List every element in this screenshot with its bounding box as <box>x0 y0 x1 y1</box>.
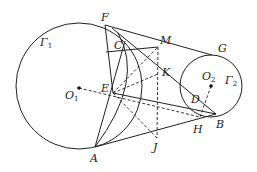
line-ek <box>113 74 158 93</box>
line-mj <box>157 47 158 138</box>
label-b: B <box>215 118 224 131</box>
label-h: H <box>192 123 203 136</box>
line-ej <box>113 93 157 138</box>
line-eb <box>113 93 216 114</box>
label-e: E <box>100 82 109 95</box>
label-m: M <box>159 34 172 47</box>
label-d: D <box>190 93 200 106</box>
label-f: F <box>100 11 109 24</box>
label-k: K <box>161 66 171 79</box>
label-gamma2: Γ2 <box>224 74 237 88</box>
label-a: A <box>89 152 98 165</box>
center-o1-dot <box>77 86 81 90</box>
circle-gamma1 <box>16 23 142 149</box>
label-g: G <box>218 42 227 55</box>
line-ea <box>95 41 125 147</box>
label-o1: O1 <box>65 89 79 103</box>
label-j: J <box>151 141 158 154</box>
label-c: C <box>114 39 123 52</box>
geometry-diagram: Γ1 Γ2 F C M G E K D H B J A O1 O2 <box>0 0 257 172</box>
center-o2-dot <box>209 84 213 88</box>
label-o2: O2 <box>202 70 216 84</box>
line-o1-h <box>79 88 200 117</box>
label-gamma1: Γ1 <box>39 36 52 50</box>
line-em <box>113 47 158 93</box>
